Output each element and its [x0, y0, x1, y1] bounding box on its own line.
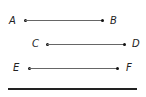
baseline-rule: [8, 88, 137, 90]
point-label-c: C: [32, 39, 39, 49]
point-b: [101, 19, 104, 22]
point-label-e: E: [13, 63, 19, 73]
line-cd: [47, 44, 124, 45]
line-ab: [25, 20, 102, 21]
line-ef: [29, 68, 117, 69]
point-f: [116, 67, 119, 70]
point-label-d: D: [132, 39, 140, 49]
point-label-f: F: [126, 63, 132, 73]
point-d: [123, 43, 126, 46]
point-label-b: B: [110, 16, 117, 26]
point-label-a: A: [9, 16, 16, 26]
